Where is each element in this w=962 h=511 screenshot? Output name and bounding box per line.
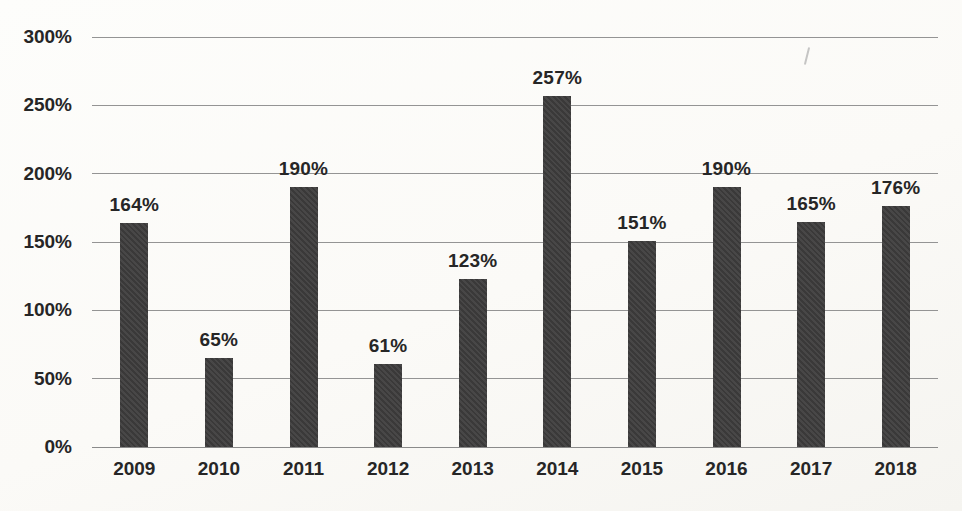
y-tick-label: 300% xyxy=(23,26,72,48)
gridline xyxy=(92,37,938,38)
bar-value-label: 65% xyxy=(169,329,269,351)
gridline xyxy=(92,105,938,106)
bar xyxy=(713,187,741,447)
bar-value-label: 164% xyxy=(84,194,184,216)
bar xyxy=(205,358,233,447)
gridline xyxy=(92,173,938,174)
bar xyxy=(628,241,656,447)
bar-value-label: 176% xyxy=(846,177,946,199)
bar-value-label: 190% xyxy=(677,158,777,180)
x-tick-label: 2018 xyxy=(846,458,946,480)
y-tick-label: 0% xyxy=(45,436,72,458)
plot-area: 164%65%190%61%123%257%151%190%165%176% xyxy=(92,37,938,447)
x-axis: 2009201020112012201320142015201620172018 xyxy=(92,458,938,486)
y-tick-label: 200% xyxy=(23,163,72,185)
bar xyxy=(374,364,402,447)
bar xyxy=(120,223,148,447)
bar-value-label: 190% xyxy=(254,158,354,180)
bar-value-label: 123% xyxy=(423,250,523,272)
y-axis: 0%50%100%150%200%250%300% xyxy=(0,37,72,447)
bar-value-label: 257% xyxy=(507,67,607,89)
y-tick-label: 150% xyxy=(23,231,72,253)
y-tick-label: 100% xyxy=(23,299,72,321)
y-tick-label: 250% xyxy=(23,94,72,116)
bar xyxy=(459,279,487,447)
bar xyxy=(797,222,825,448)
y-tick-label: 50% xyxy=(34,368,72,390)
bar-value-label: 61% xyxy=(338,335,438,357)
bar-chart: 0%50%100%150%200%250%300% 164%65%190%61%… xyxy=(0,0,962,511)
bar-value-label: 151% xyxy=(592,212,692,234)
bar xyxy=(543,96,571,447)
bar xyxy=(882,206,910,447)
bar xyxy=(290,187,318,447)
